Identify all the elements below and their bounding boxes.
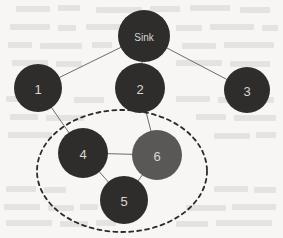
node-6-circle (132, 130, 182, 180)
node-sink[interactable]: Sink (118, 10, 170, 62)
edge-sink-3 (166, 48, 227, 80)
node-3-circle (224, 67, 270, 113)
node-layer: Sink123456 (14, 10, 270, 224)
node-1[interactable]: 1 (14, 64, 62, 112)
node-2-circle (115, 63, 165, 113)
node-1-circle (14, 64, 62, 112)
node-sink-circle (118, 10, 170, 62)
edge-5-6 (138, 174, 143, 181)
edge-sink-1 (59, 47, 122, 78)
graph-figure: Sink123456 (0, 0, 283, 238)
node-5[interactable]: 5 (100, 176, 148, 224)
edge-4-5 (99, 171, 109, 183)
node-3[interactable]: 3 (224, 67, 270, 113)
node-6[interactable]: 6 (132, 130, 182, 180)
node-2[interactable]: 2 (115, 63, 165, 113)
node-4[interactable]: 4 (58, 128, 108, 178)
node-4-circle (58, 128, 108, 178)
graph-canvas: Sink123456 (0, 0, 283, 238)
edge-2-6 (146, 111, 151, 131)
edge-4-6 (107, 154, 133, 155)
node-5-circle (100, 176, 148, 224)
